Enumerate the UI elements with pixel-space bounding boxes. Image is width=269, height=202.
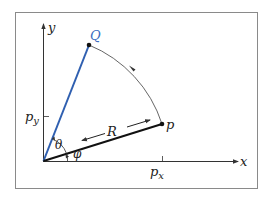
phi-label: φ <box>73 147 82 161</box>
px-label-sub: x <box>158 170 164 181</box>
y-axis-label: y <box>47 20 56 35</box>
R-arrow-left <box>82 134 105 141</box>
theta-label: θ <box>55 138 63 152</box>
rotation-arc-arrow-icon <box>129 66 136 72</box>
x-axis-label: x <box>240 154 248 169</box>
point-p-label: p <box>166 117 175 132</box>
rotation-arc <box>89 45 162 124</box>
px-label: px <box>150 164 164 181</box>
vector-Q <box>44 45 90 161</box>
R-arrow-right <box>127 120 150 127</box>
point-Q <box>87 43 92 48</box>
point-Q-label: Q <box>90 28 101 43</box>
point-p <box>160 122 165 127</box>
rotation-diagram: y x Q p py px θ φ R <box>0 0 269 202</box>
figure-frame <box>16 13 258 189</box>
py-label-sub: y <box>32 115 39 126</box>
py-label: py <box>25 109 39 126</box>
R-label: R <box>106 124 117 139</box>
